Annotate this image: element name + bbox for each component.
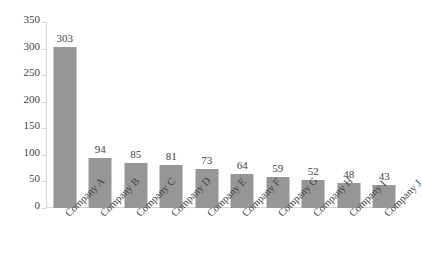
bar [53, 47, 76, 208]
y-axis-tick-mark [42, 75, 46, 76]
y-axis-tick-mark [42, 208, 46, 209]
y-axis-tick-label: 100 [24, 147, 41, 158]
y-axis-tick-mark [42, 181, 46, 182]
bar-value-label: 64 [237, 160, 248, 171]
y-axis-tick-mark [42, 22, 46, 23]
y-axis-tick-mark [42, 102, 46, 103]
bar-value-label: 303 [57, 33, 74, 44]
bar-group: 303 [47, 22, 83, 208]
y-axis-tick-label: 0 [35, 200, 41, 211]
bar-value-label: 81 [166, 151, 177, 162]
x-axis-tick: Company A [47, 211, 83, 275]
x-axis-tick: Company E [189, 211, 225, 275]
x-axis-tick: Company H [296, 211, 332, 275]
bar-group: 43 [367, 22, 403, 208]
bar-chart: 350300250200150100500 303948581736459524… [0, 0, 422, 277]
bar-value-label: 73 [201, 155, 212, 166]
x-axis-tick: Company J [367, 211, 403, 275]
x-axis-tick: Company C [118, 211, 154, 275]
y-axis-tick-label: 300 [24, 41, 41, 52]
x-axis-tick: Company I [331, 211, 367, 275]
x-axis-tick: Company D [154, 211, 190, 275]
x-axis-tick: Company B [83, 211, 119, 275]
y-axis-tick-label: 250 [24, 67, 41, 78]
bar-value-label: 59 [272, 163, 283, 174]
y-axis-tick-label: 50 [29, 173, 40, 184]
y-axis-tick-label: 150 [24, 120, 41, 131]
bar-value-label: 85 [130, 149, 141, 160]
y-axis-tick-label: 200 [24, 94, 41, 105]
bar-value-label: 94 [95, 144, 106, 155]
y-axis-tick-label: 350 [24, 14, 41, 25]
y-axis-tick-mark [42, 49, 46, 50]
x-axis-tick: Company F [225, 211, 261, 275]
y-axis-tick-mark [42, 155, 46, 156]
x-axis-tick: Company G [260, 211, 296, 275]
y-axis-tick-mark [42, 128, 46, 129]
